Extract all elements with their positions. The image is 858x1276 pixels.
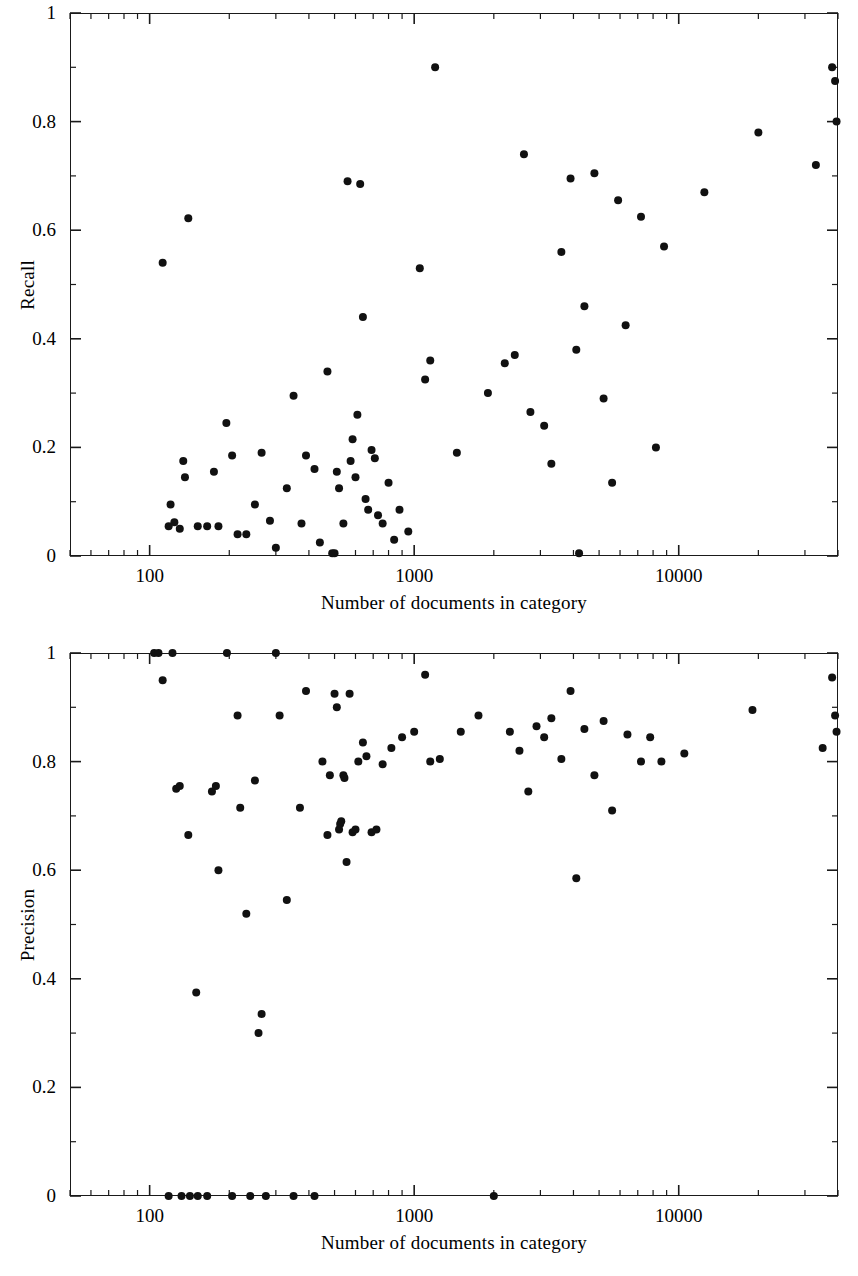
- data-point: [362, 495, 370, 503]
- data-point: [276, 711, 284, 719]
- data-point: [242, 530, 250, 538]
- data-point: [501, 359, 509, 367]
- data-point: [343, 858, 351, 866]
- y-tick-label: 0: [0, 545, 56, 567]
- data-point: [323, 831, 331, 839]
- data-point: [290, 1192, 298, 1200]
- data-point: [828, 673, 836, 681]
- recall-panel: Recall Number of documents in category 0…: [0, 0, 858, 620]
- data-point: [436, 755, 444, 763]
- data-point: [374, 511, 382, 519]
- data-point: [426, 758, 434, 766]
- data-point: [246, 1192, 254, 1200]
- data-point: [337, 817, 345, 825]
- data-point: [484, 389, 492, 397]
- x-tick-label: 10000: [655, 565, 703, 587]
- y-tick-label: 0.8: [0, 111, 56, 133]
- data-point: [351, 825, 359, 833]
- data-point: [359, 739, 367, 747]
- data-point: [203, 1192, 211, 1200]
- data-point: [410, 728, 418, 736]
- data-point: [210, 468, 218, 476]
- y-tick-label: 0.6: [0, 859, 56, 881]
- data-point: [364, 506, 372, 514]
- data-point: [242, 910, 250, 918]
- y-tick-label: 1: [0, 642, 56, 664]
- data-point: [181, 473, 189, 481]
- data-point: [331, 690, 339, 698]
- data-point: [748, 706, 756, 714]
- data-point: [622, 321, 630, 329]
- data-point: [168, 649, 176, 657]
- data-point: [540, 733, 548, 741]
- y-tick-label: 0: [0, 1185, 56, 1207]
- data-point: [533, 722, 541, 730]
- data-point: [426, 357, 434, 365]
- two-panel-scatter-figure: Recall Number of documents in category 0…: [0, 0, 858, 1276]
- data-point: [262, 1192, 270, 1200]
- data-point: [590, 169, 598, 177]
- y-tick-label: 0.4: [0, 968, 56, 990]
- data-point: [340, 774, 348, 782]
- data-point: [302, 452, 310, 460]
- data-point: [580, 302, 588, 310]
- data-point: [283, 896, 291, 904]
- data-point: [831, 711, 839, 719]
- data-point: [524, 787, 532, 795]
- precision-x-axis-label: Number of documents in category: [70, 1232, 838, 1254]
- data-point: [547, 714, 555, 722]
- data-point: [515, 747, 523, 755]
- y-tick-label: 1: [0, 2, 56, 24]
- data-point: [575, 549, 583, 557]
- data-point: [833, 728, 841, 736]
- data-point: [608, 806, 616, 814]
- x-tick-label: 100: [135, 565, 164, 587]
- data-point: [316, 538, 324, 546]
- data-point: [194, 522, 202, 530]
- data-point: [754, 128, 762, 136]
- data-point: [396, 506, 404, 514]
- precision-y-axis-label: Precision: [14, 653, 40, 1196]
- data-point: [331, 549, 339, 557]
- x-tick-label: 100: [135, 1205, 164, 1227]
- data-point: [608, 479, 616, 487]
- data-point: [474, 711, 482, 719]
- data-point: [812, 161, 820, 169]
- data-point: [390, 536, 398, 544]
- data-point: [159, 259, 167, 267]
- y-tick-label: 0.2: [0, 1076, 56, 1098]
- data-point: [421, 376, 429, 384]
- data-point: [416, 264, 424, 272]
- data-point: [194, 1192, 202, 1200]
- data-point: [272, 649, 280, 657]
- data-point: [212, 782, 220, 790]
- data-point: [637, 758, 645, 766]
- data-point: [831, 77, 839, 85]
- data-point: [567, 175, 575, 183]
- data-point: [404, 528, 412, 536]
- data-point: [165, 1192, 173, 1200]
- recall-y-axis-label: Recall: [14, 13, 40, 556]
- data-point: [557, 755, 565, 763]
- x-tick-label: 10000: [655, 1205, 703, 1227]
- data-point: [398, 733, 406, 741]
- data-point: [354, 758, 362, 766]
- data-point: [170, 518, 178, 526]
- recall-x-axis-label: Number of documents in category: [70, 592, 838, 614]
- data-point: [266, 517, 274, 525]
- y-tick-label: 0.2: [0, 436, 56, 458]
- data-point: [453, 449, 461, 457]
- data-point: [652, 443, 660, 451]
- data-point: [167, 500, 175, 508]
- data-point: [251, 500, 259, 508]
- data-point: [351, 473, 359, 481]
- data-point: [828, 63, 836, 71]
- data-point: [311, 465, 319, 473]
- data-point: [431, 63, 439, 71]
- data-point: [179, 457, 187, 465]
- data-point: [614, 196, 622, 204]
- data-point: [385, 479, 393, 487]
- data-point: [255, 1029, 263, 1037]
- data-point: [572, 346, 580, 354]
- data-point: [222, 419, 230, 427]
